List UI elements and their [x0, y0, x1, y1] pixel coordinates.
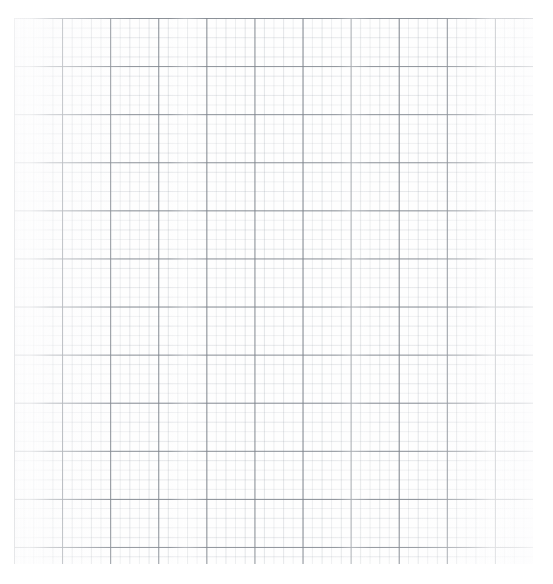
graph-paper-sheet	[14, 18, 533, 564]
page-canvas	[0, 0, 553, 584]
right-margin	[533, 0, 553, 584]
scan-edge-rule	[18, 7, 538, 8]
left-margin	[0, 0, 14, 584]
bottom-margin	[0, 564, 553, 584]
scan-smudge	[190, 1, 360, 6]
major-gridlines	[14, 18, 533, 564]
